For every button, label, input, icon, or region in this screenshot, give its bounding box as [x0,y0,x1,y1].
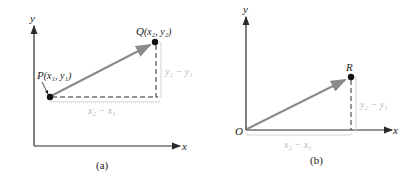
point-r-label: R [345,61,353,73]
vertical-dimension-bracket [354,77,356,130]
point-q-name: Q [136,25,144,37]
vertical-dimension-bracket [159,43,161,97]
vertical-diff-label: y₂ − y₁ [359,99,388,110]
point-q-coords: (x₂, y₂) [144,26,172,38]
y-axis-label: y [29,12,35,24]
origin-label: O [235,125,243,137]
horizontal-dimension-bracket [247,133,351,135]
x-axis-label: x [392,124,398,136]
vector-diagram: y x x₂ − x₁ y₂ − y₁ P(x₁, y₁) Q(x₂, y₂) … [0,0,418,176]
vertical-diff-label: y₂ − y₁ [164,66,193,77]
horizontal-dimension-bracket [51,100,159,102]
horizontal-diff-label: x₂ − x₁ [283,139,312,150]
panel-a: y x x₂ − x₁ y₂ − y₁ P(x₁, y₁) Q(x₂, y₂) … [29,12,193,172]
y-axis-label: y [242,3,248,15]
p-pointer-arrow [42,82,48,94]
caption-b: (b) [310,154,323,167]
point-p [47,94,53,100]
horizontal-diff-label: x₂ − x₁ [87,105,116,116]
point-q-label: Q(x₂, y₂) [136,25,172,38]
point-p-label: P(x₁, y₁) [36,69,72,82]
point-r [348,74,354,80]
panel-b: y x O x₂ − x₁ y₂ − y₁ R (b) [235,3,398,167]
x-axis-label: x [181,140,187,152]
point-p-coords: (x₁, y₁) [44,70,72,82]
caption-a: (a) [96,159,109,172]
vector-or [247,80,345,129]
point-q [152,39,158,45]
